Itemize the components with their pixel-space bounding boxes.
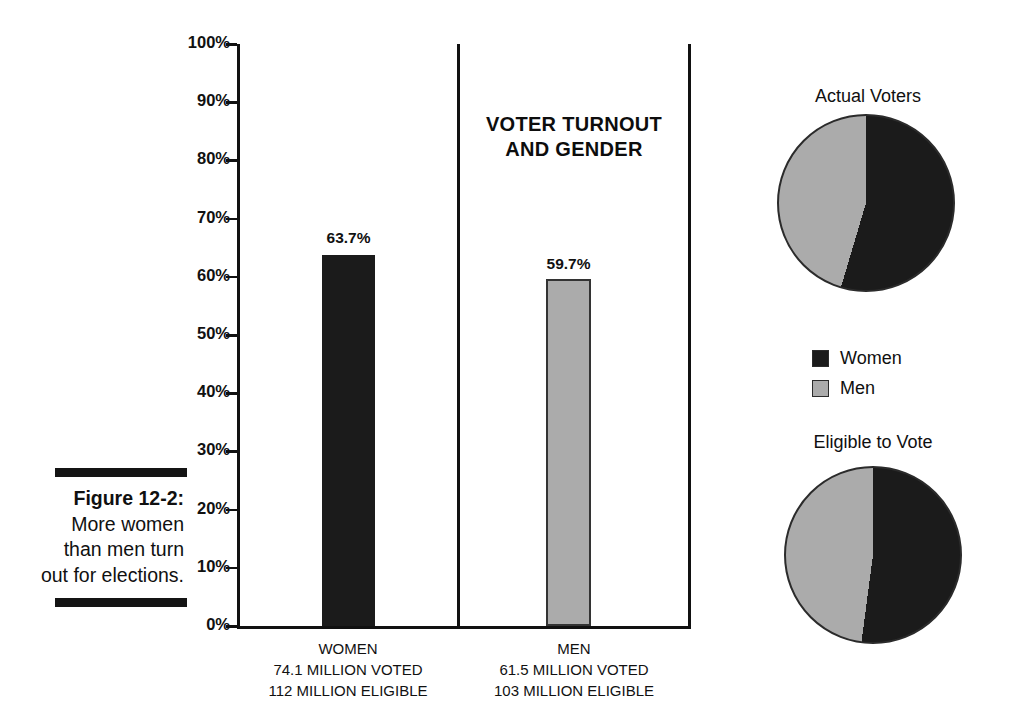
category-label-women: WOMEN 74.1 MILLION VOTED 112 MILLION ELI… — [238, 638, 458, 701]
pie-chart-eligible-to-vote — [784, 466, 962, 644]
legend-item-men: Men — [812, 378, 902, 399]
y-tick-mark — [226, 625, 237, 628]
y-tick-mark — [226, 159, 237, 162]
bar-women: 63.7% — [322, 255, 375, 626]
figure-caption-body: More women than men turn out for electio… — [41, 513, 184, 586]
figure-caption-label: Figure 12-2: — [73, 487, 184, 509]
chart-title-line-1: VOTER TURNOUT — [460, 112, 688, 137]
y-axis-line — [237, 44, 240, 628]
legend-item-women: Women — [812, 348, 902, 369]
x-axis-baseline — [237, 626, 691, 629]
y-tick-mark — [226, 334, 237, 337]
pie-title-eligible-to-vote: Eligible to Vote — [770, 432, 976, 453]
category-voted-women: 74.1 MILLION VOTED — [238, 659, 458, 680]
category-voted-men: 61.5 MILLION VOTED — [460, 659, 688, 680]
pie-chart-actual-voters — [777, 114, 955, 292]
chart-title-line-2: AND GENDER — [460, 137, 688, 162]
legend-label-men: Men — [840, 378, 875, 399]
y-tick-label: 100% — [188, 33, 230, 52]
y-tick-mark — [226, 43, 237, 46]
category-name-women: WOMEN — [238, 638, 458, 659]
y-tick-mark — [226, 392, 237, 395]
pie-title-actual-voters: Actual Voters — [770, 86, 966, 107]
category-eligible-men: 103 MILLION ELIGIBLE — [460, 680, 688, 701]
pie-legend: Women Men — [812, 348, 902, 408]
bar-value-men: 59.7% — [547, 255, 591, 273]
bar-chart: 0%10%20%30%40%50%60%70%80%90%100% 63.7% … — [178, 34, 698, 694]
plot-right-border — [688, 44, 691, 628]
category-label-men: MEN 61.5 MILLION VOTED 103 MILLION ELIGI… — [460, 638, 688, 701]
y-tick-mark — [226, 218, 237, 221]
legend-swatch-women-icon — [812, 350, 829, 367]
y-tick-mark — [226, 567, 237, 570]
legend-label-women: Women — [840, 348, 902, 369]
category-eligible-women: 112 MILLION ELIGIBLE — [238, 680, 458, 701]
caption-rule-top — [55, 468, 187, 477]
bar-value-women: 63.7% — [327, 229, 371, 247]
y-tick-mark — [226, 450, 237, 453]
y-tick-mark — [226, 509, 237, 512]
y-tick-mark — [226, 101, 237, 104]
figure-caption-block: Figure 12-2: More women than men turn ou… — [40, 468, 188, 607]
bar-men: 59.7% — [546, 279, 591, 626]
y-tick-mark — [226, 276, 237, 279]
caption-rule-bottom — [55, 598, 187, 607]
figure-caption-text: Figure 12-2: More women than men turn ou… — [40, 486, 188, 588]
legend-swatch-men-icon — [812, 380, 829, 397]
category-name-men: MEN — [460, 638, 688, 659]
chart-title: VOTER TURNOUT AND GENDER — [460, 112, 688, 162]
